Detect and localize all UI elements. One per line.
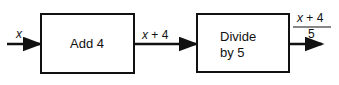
intermediate-rest: + 4	[151, 28, 168, 42]
output-numerator: x + 4	[297, 11, 323, 25]
add-4-box: Add 4	[40, 13, 135, 74]
divide-label-line1: Divide	[220, 29, 256, 45]
intermediate-var: x	[142, 28, 148, 42]
output-denominator: 5	[308, 27, 315, 41]
input-label: x	[16, 27, 22, 41]
intermediate-label: x + 4	[142, 28, 168, 42]
add-4-label: Add 4	[70, 36, 104, 52]
divide-label-line2: by 5	[220, 45, 245, 61]
divide-by-5-box: Divide by 5	[196, 13, 290, 73]
output-numerator-var: x	[297, 11, 303, 25]
output-numerator-rest: + 4	[306, 11, 323, 25]
